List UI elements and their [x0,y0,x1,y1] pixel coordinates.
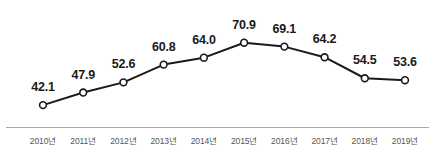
x-axis-tick-label: 2010년 [30,137,56,146]
data-point-label: 69.1 [273,23,297,36]
data-point-marker [80,89,87,96]
data-point-marker [361,75,368,82]
x-axis-tick-label: 2019년 [392,137,418,146]
data-point-label: 54.5 [353,54,377,67]
data-point-marker [321,54,328,61]
data-point-label: 52.6 [112,58,136,71]
data-point-marker [241,39,248,46]
x-axis-tick-label: 2015년 [231,137,257,146]
x-axis-tick-label: 2017년 [311,137,337,146]
data-point-marker [120,79,127,86]
data-point-marker [40,102,47,109]
x-axis-line [6,127,429,128]
data-point-label: 47.9 [71,69,95,82]
chart-plot-area [0,0,435,155]
x-axis-tick-label: 2013년 [150,137,176,146]
data-point-marker [402,77,409,84]
x-axis-tick-label: 2016년 [271,137,297,146]
x-axis-tick-label: 2012년 [110,137,136,146]
data-point-label: 64.0 [192,34,216,47]
data-point-label: 42.1 [31,81,55,94]
data-point-marker [200,54,207,61]
x-axis-tick-label: 2011년 [70,137,96,146]
x-axis-tick-label: 2018년 [352,137,378,146]
x-axis-tick-label: 2014년 [191,137,217,146]
data-point-marker [281,43,288,50]
data-point-label: 60.8 [152,41,176,54]
data-point-marker [160,61,167,68]
series-line [43,43,405,105]
line-chart: 42.147.952.660.864.070.969.164.254.553.6… [0,0,435,155]
data-point-label: 64.2 [313,33,337,46]
data-point-label: 70.9 [232,19,256,32]
data-point-label: 53.6 [393,56,417,69]
